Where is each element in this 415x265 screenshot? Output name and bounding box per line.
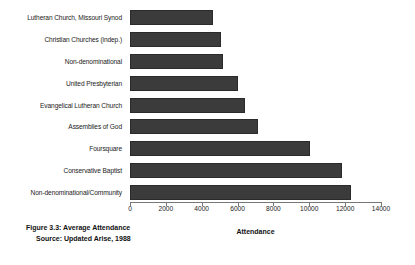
caption-line-1: Figure 3.3: Average Attendance: [26, 222, 131, 233]
x-tick-label: 4000: [194, 205, 209, 212]
bar-row: [130, 141, 381, 156]
category-label: Foursquare: [0, 141, 126, 156]
x-tick-label: 6000: [230, 205, 245, 212]
bar-rows: [130, 8, 381, 202]
bar-row: [130, 54, 381, 69]
bar-row: [130, 163, 381, 178]
bar-row: [130, 10, 381, 25]
bar-row: [130, 98, 381, 113]
bar: [130, 119, 258, 134]
x-axis-title: Attendance: [130, 228, 381, 235]
bar: [130, 185, 351, 200]
bar-row: [130, 76, 381, 91]
x-tick-label: 2000: [159, 205, 174, 212]
caption-line-2: Source: Updated Arise, 1988: [26, 233, 131, 244]
category-label: Non-denominational: [0, 54, 126, 69]
bar: [130, 163, 342, 178]
bar-row: [130, 119, 381, 134]
bar-row: [130, 32, 381, 47]
category-label: Assemblies of God: [0, 119, 126, 134]
x-tick-label: 12000: [336, 205, 354, 212]
figure-caption: Figure 3.3: Average Attendance Source: U…: [26, 222, 131, 244]
bar-row: [130, 185, 381, 200]
category-label: Christian Churches (indep.): [0, 32, 126, 47]
bar: [130, 76, 238, 91]
category-label: Evangelical Lutheran Church: [0, 98, 126, 113]
x-tick-label: 10000: [300, 205, 318, 212]
x-tick-label: 0: [128, 205, 132, 212]
bar-chart: Lutheran Church, Missouri SynodChristian…: [0, 0, 415, 265]
category-axis-labels: Lutheran Church, Missouri SynodChristian…: [0, 8, 126, 202]
bar: [130, 98, 245, 113]
plot-area: [130, 8, 381, 202]
category-label: Non-denominational/Community: [0, 185, 126, 200]
category-label: Conservative Baptist: [0, 163, 126, 178]
category-label: Lutheran Church, Missouri Synod: [0, 10, 126, 25]
x-tick-label: 14000: [372, 205, 390, 212]
bar: [130, 10, 213, 25]
category-label: United Presbyterian: [0, 76, 126, 91]
bar: [130, 141, 310, 156]
bar: [130, 54, 223, 69]
x-tick-label: 8000: [266, 205, 281, 212]
bar: [130, 32, 221, 47]
